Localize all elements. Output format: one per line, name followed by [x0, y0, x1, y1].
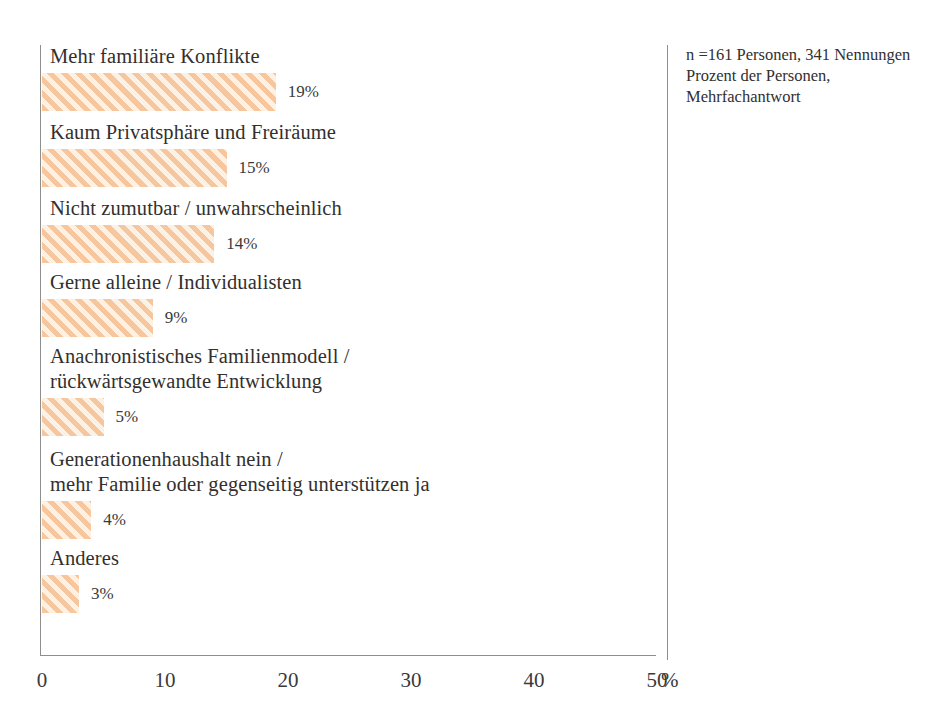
bar-category-label: Anderes [50, 546, 119, 571]
bar [42, 575, 79, 613]
x-tick-label: 30 [401, 668, 422, 693]
bar-value-label: 19% [288, 82, 319, 102]
bar-category-label: Gerne alleine / Individualisten [50, 270, 302, 295]
chart-area: Mehr familiäre Konflikte19%Kaum Privatsp… [0, 0, 680, 727]
bar-row: 15% [42, 149, 336, 187]
x-axis-spine [40, 655, 656, 656]
bar-value-label: 3% [91, 584, 114, 604]
bar-category-label: Nicht zumutbar / unwahrscheinlich [50, 196, 342, 221]
bar-category-group: Anderes3% [42, 546, 119, 613]
panel-divider [667, 45, 668, 660]
bar-value-label: 14% [226, 234, 257, 254]
bar-category-label: Mehr familiäre Konflikte [50, 44, 260, 69]
annotation-line: Prozent der Personen, [686, 65, 926, 86]
bar [42, 501, 91, 539]
bar-category-label: Anachronistisches Familienmodell / rückw… [50, 344, 349, 394]
bar-row: 5% [42, 398, 349, 436]
y-axis-spine [40, 45, 41, 656]
x-tick-label: 0 [37, 668, 48, 693]
bar-category-label: Generationenhaushalt nein / mehr Familie… [50, 447, 430, 497]
bar-category-group: Gerne alleine / Individualisten9% [42, 270, 302, 337]
bar-category-group: Kaum Privatsphäre und Freiräume15% [42, 120, 336, 187]
bar-row: 14% [42, 225, 342, 263]
bar-row: 4% [42, 501, 430, 539]
bar-category-label: Kaum Privatsphäre und Freiräume [50, 120, 336, 145]
x-tick-label: 40 [524, 668, 545, 693]
bar-category-group: Mehr familiäre Konflikte19% [42, 44, 260, 111]
bar-value-label: 15% [239, 158, 270, 178]
bar-category-group: Nicht zumutbar / unwahrscheinlich14% [42, 196, 342, 263]
bar-row: 19% [42, 73, 260, 111]
bar-category-group: Anachronistisches Familienmodell / rückw… [42, 344, 349, 436]
bar-value-label: 5% [116, 407, 139, 427]
bar [42, 398, 104, 436]
bar-category-group: Generationenhaushalt nein / mehr Familie… [42, 447, 430, 539]
x-tick-label: 20 [278, 668, 299, 693]
x-axis-unit-label: % [661, 668, 679, 693]
annotation-line: n =161 Personen, 341 Nennungen [686, 44, 926, 65]
bar-row: 9% [42, 299, 302, 337]
bar-row: 3% [42, 575, 119, 613]
bar-value-label: 9% [165, 308, 188, 328]
chart-annotation-note: n =161 Personen, 341 NennungenProzent de… [686, 44, 926, 107]
bar [42, 149, 227, 187]
x-tick-label: 10 [155, 668, 176, 693]
x-axis-tick-labels: 01020304050 [0, 668, 700, 700]
bar [42, 225, 214, 263]
bar [42, 299, 153, 337]
bar [42, 73, 276, 111]
bar-value-label: 4% [103, 510, 126, 530]
annotation-line: Mehrfachantwort [686, 86, 926, 107]
